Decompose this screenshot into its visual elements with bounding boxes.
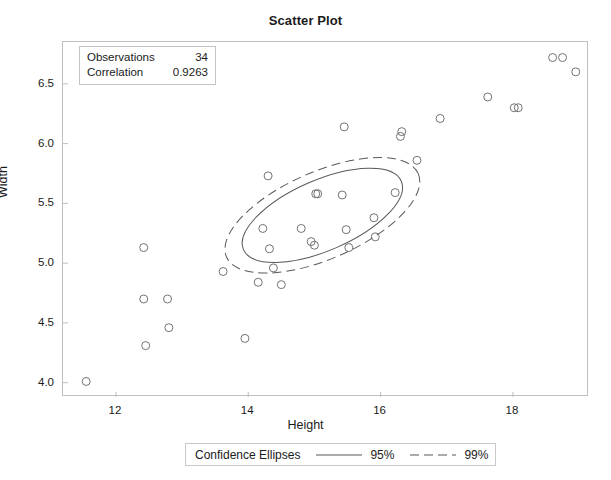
data-point	[338, 191, 346, 199]
statistics-value: 0.9263	[173, 65, 208, 80]
data-point	[269, 264, 277, 272]
data-point	[164, 295, 172, 303]
data-point	[396, 132, 404, 140]
legend-entries: 95%99%	[300, 448, 488, 462]
confidence-ellipse-99pct	[209, 134, 436, 297]
statistics-label: Observations	[87, 50, 173, 65]
x-tick-label: 14	[227, 404, 267, 416]
y-tick-label: 4.5	[18, 316, 54, 328]
data-point	[264, 172, 272, 180]
data-point	[142, 342, 150, 350]
legend-entry: 95%	[316, 448, 394, 462]
statistics-inset-box: Observations34Correlation0.9263	[79, 46, 216, 85]
x-tick-label: 18	[492, 404, 532, 416]
y-tick-label: 4.0	[18, 376, 54, 388]
data-point	[140, 295, 148, 303]
legend-label: 99%	[464, 448, 488, 462]
statistics-value: 34	[173, 50, 208, 65]
statistics-label: Correlation	[87, 65, 173, 80]
data-point	[312, 190, 320, 198]
data-point	[559, 54, 567, 62]
data-point	[241, 334, 249, 342]
data-point	[297, 224, 305, 232]
data-point	[219, 267, 227, 275]
x-tick-label: 12	[95, 404, 135, 416]
data-point	[314, 190, 322, 198]
y-tick-label: 6.5	[18, 77, 54, 89]
data-point	[391, 189, 399, 197]
legend: Confidence Ellipses 95%99%	[185, 443, 496, 466]
x-tick-label: 16	[360, 404, 400, 416]
x-axis-title: Height	[0, 418, 611, 432]
statistics-table: Observations34Correlation0.9263	[87, 50, 208, 80]
plot-area: Observations34Correlation0.9263	[62, 41, 588, 396]
statistics-row: Correlation0.9263	[87, 65, 208, 80]
data-point	[484, 93, 492, 101]
y-axis-title: Width	[0, 166, 10, 198]
legend-entry: 99%	[410, 448, 488, 462]
scatter-plot-figure: Scatter Plot Width Height 4.04.55.05.56.…	[0, 0, 611, 480]
data-point	[165, 324, 173, 332]
data-point	[342, 226, 350, 234]
data-point	[549, 54, 557, 62]
data-point	[254, 278, 262, 286]
data-point	[345, 244, 353, 252]
data-point	[413, 156, 421, 164]
y-tick-label: 6.0	[18, 137, 54, 149]
y-tick-label: 5.5	[18, 196, 54, 208]
legend-title: Confidence Ellipses	[195, 448, 300, 462]
data-point	[265, 245, 273, 253]
legend-line-swatch	[316, 450, 362, 460]
data-point	[572, 68, 580, 76]
data-point	[398, 128, 406, 136]
data-point	[370, 214, 378, 222]
data-point	[259, 224, 267, 232]
data-point	[436, 114, 444, 122]
legend-label: 95%	[370, 448, 394, 462]
page-title: Scatter Plot	[0, 13, 611, 28]
data-point	[371, 233, 379, 241]
plot-canvas	[63, 42, 589, 397]
data-point	[340, 123, 348, 131]
legend-line-swatch	[410, 450, 456, 460]
statistics-row: Observations34	[87, 50, 208, 65]
data-point	[82, 377, 90, 385]
data-point	[140, 244, 148, 252]
y-tick-label: 5.0	[18, 256, 54, 268]
data-point	[277, 281, 285, 289]
